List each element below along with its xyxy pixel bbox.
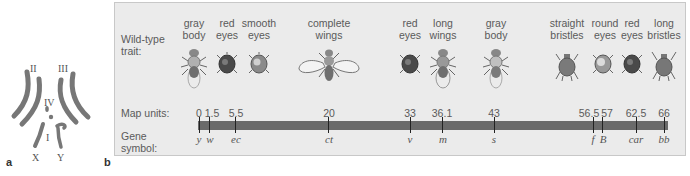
map-unit-value: 36.1 xyxy=(432,107,452,119)
trait-label: graybody xyxy=(485,17,508,41)
trait-line1: long xyxy=(430,17,457,29)
trait-line2: bristles xyxy=(550,29,584,41)
locus-tick xyxy=(410,117,411,133)
chromosome-label-y: Y xyxy=(57,152,64,163)
gene-symbol: B xyxy=(600,133,607,145)
row-label-gene-line1: Gene xyxy=(121,130,157,142)
trait-line1: red xyxy=(621,17,643,29)
trait-line2: wings xyxy=(430,29,457,41)
trait-line1: long xyxy=(647,17,680,29)
locus-tick xyxy=(593,117,594,133)
locus-tick xyxy=(235,117,236,133)
trait-line2: eyes xyxy=(621,29,643,41)
chromosome-set-icon xyxy=(0,0,110,176)
map-unit-value: 20 xyxy=(323,107,335,119)
fly-thorax-long-bristles-icon xyxy=(651,52,677,82)
fly-long-wings-icon xyxy=(428,47,458,89)
trait-line1: round xyxy=(592,17,619,29)
trait-line1: gray xyxy=(183,17,206,29)
map-unit-value: 5.5 xyxy=(229,107,244,119)
trait-line1: gray xyxy=(485,17,508,29)
trait-line2: eyes xyxy=(592,29,619,41)
trait-label: graybody xyxy=(183,17,206,41)
fly-complete-wings-icon xyxy=(297,47,361,85)
trait-label: longbristles xyxy=(647,17,680,41)
chromosome-label-ii: II xyxy=(30,63,37,74)
trait-label: redeyes xyxy=(216,17,238,41)
gene-symbol: w xyxy=(206,133,213,145)
trait-line1: straight xyxy=(550,17,584,29)
fly-gray-body-icon xyxy=(481,47,511,89)
trait-label: straightbristles xyxy=(550,17,584,41)
trait-line2: wings xyxy=(308,29,351,41)
fly-head-red-eyes-icon xyxy=(621,52,643,76)
trait-line2: eyes xyxy=(399,29,421,41)
chromosome-label-x: X xyxy=(32,152,39,163)
fly-head-smooth-eyes-icon xyxy=(248,52,270,76)
map-unit-value: 0 xyxy=(196,107,202,119)
trait-line2: eyes xyxy=(216,29,238,41)
trait-line1: smooth xyxy=(242,17,276,29)
gene-symbol: ct xyxy=(325,133,333,145)
locus-tick xyxy=(494,117,495,133)
trait-line2: eyes xyxy=(242,29,276,41)
gene-symbol: bb xyxy=(659,133,670,145)
trait-label: smootheyes xyxy=(242,17,276,41)
fly-gray-body-icon xyxy=(179,47,209,89)
locus-tick xyxy=(664,117,665,133)
map-unit-value: 56.5 xyxy=(579,107,599,119)
map-unit-value: 62.5 xyxy=(626,107,646,119)
fly-thorax-straight-bristles-icon xyxy=(554,52,580,82)
locus-tick xyxy=(328,117,329,133)
row-label-trait: Wild-type trait: xyxy=(121,33,165,57)
gene-symbol: m xyxy=(439,133,447,145)
gene-symbol: ec xyxy=(231,133,241,145)
gene-symbol: v xyxy=(408,133,413,145)
trait-label: roundeyes xyxy=(592,17,619,41)
row-label-gene-line2: symbol: xyxy=(121,142,157,154)
chromosome-label-iv: IV xyxy=(44,97,55,108)
row-label-map-units: Map units: xyxy=(121,107,169,119)
trait-label: longwings xyxy=(430,17,457,41)
trait-label: redeyes xyxy=(621,17,643,41)
map-unit-value: 66 xyxy=(658,107,670,119)
trait-line1: complete xyxy=(308,17,351,29)
locus-tick xyxy=(209,117,210,133)
locus-tick xyxy=(602,117,603,133)
row-label-trait-line2: trait: xyxy=(121,45,165,57)
locus-tick xyxy=(442,117,443,133)
trait-line2: body xyxy=(485,29,508,41)
trait-line2: body xyxy=(183,29,206,41)
gene-symbol: y xyxy=(197,133,202,145)
trait-label: completewings xyxy=(308,17,351,41)
chromosome-label-iii: III xyxy=(58,63,68,74)
fly-head-red-eyes-icon xyxy=(216,52,238,76)
gene-symbol: f xyxy=(591,133,594,145)
trait-line2: bristles xyxy=(647,29,680,41)
trait-line1: red xyxy=(216,17,238,29)
trait-label: redeyes xyxy=(399,17,421,41)
chromosome-map-bar xyxy=(198,121,668,130)
locus-tick xyxy=(636,117,637,133)
gene-symbol: s xyxy=(492,133,496,145)
row-label-trait-line1: Wild-type xyxy=(121,33,165,45)
map-unit-value: 1.5 xyxy=(205,107,220,119)
map-unit-value: 57 xyxy=(601,107,613,119)
chromosome-label-i: I xyxy=(46,132,49,143)
fly-head-round-eyes-icon xyxy=(592,52,614,76)
panel-label-b: b xyxy=(104,156,111,168)
fly-head-red-eyes-icon xyxy=(399,52,421,76)
locus-tick xyxy=(199,117,200,133)
trait-line1: red xyxy=(399,17,421,29)
gene-symbol: car xyxy=(629,133,644,145)
row-label-gene-symbol: Gene symbol: xyxy=(121,130,157,154)
panel-label-a: a xyxy=(6,156,12,168)
map-unit-value: 43 xyxy=(488,107,500,119)
map-unit-value: 33 xyxy=(404,107,416,119)
